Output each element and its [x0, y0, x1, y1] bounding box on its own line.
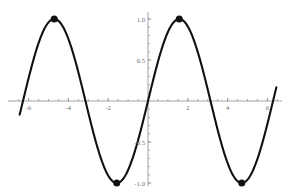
axis-group — [8, 12, 282, 186]
x-tick-label: -4 — [66, 104, 72, 111]
x-tick-label: -2 — [105, 104, 111, 111]
y-tick-label: 1.0 — [124, 16, 145, 23]
y-tick-label: 0.5 — [124, 57, 145, 64]
y-tick-label: -1.0 — [124, 180, 145, 187]
x-tick-label: 6 — [266, 104, 269, 111]
y-tick-label: -0.5 — [124, 139, 145, 146]
x-tick-label: 4 — [226, 104, 229, 111]
plot-area — [0, 0, 288, 194]
extremum-marker — [113, 180, 120, 187]
x-tick-label: -6 — [26, 104, 32, 111]
x-tick-label: 2 — [186, 104, 189, 111]
extremum-marker — [51, 16, 58, 23]
sine-curve-chart: -6-4-2246 -1.0-0.50.51.0 — [0, 0, 288, 194]
extremum-marker — [238, 180, 245, 187]
extremum-marker — [176, 16, 183, 23]
